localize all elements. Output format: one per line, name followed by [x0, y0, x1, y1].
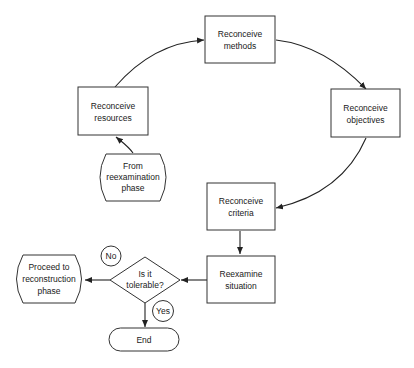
edge-from-reexam-to-resources [116, 137, 133, 153]
node-reconceive-objectives: Reconceive objectives [331, 89, 400, 137]
node-reconceive-resources: Reconceive resources [78, 87, 148, 135]
node-label-line: phase [37, 286, 60, 296]
node-label-line: Reconceive [91, 101, 136, 111]
edge-objectives-to-criteria [276, 138, 366, 208]
node-label-line: tolerable? [126, 280, 164, 290]
node-label-line: Reconceive [218, 29, 263, 39]
edge-label-text: Yes [156, 306, 170, 316]
node-label-line: Proceed to [28, 262, 69, 272]
node-label-line: End [136, 335, 151, 345]
edge-resources-to-methods [115, 40, 204, 87]
edge-label-yes: Yes [153, 301, 174, 322]
node-label-line: Reconceive [343, 103, 388, 113]
node-label-line: Is it [138, 269, 152, 279]
node-label-line: phase [121, 183, 144, 193]
node-label-line: From [123, 161, 143, 171]
node-label-line: objectives [347, 115, 385, 125]
node-label-line: methods [224, 41, 257, 51]
node-reconceive-criteria: Reconceive criteria [207, 183, 275, 230]
node-label-line: reconstruction [22, 274, 76, 284]
node-label-line: Reexamine [220, 269, 263, 279]
node-label-line: criteria [228, 208, 254, 218]
node-reconceive-methods: Reconceive methods [205, 16, 275, 63]
node-label-line: situation [225, 281, 257, 291]
edge-label-text: No [106, 251, 117, 261]
node-proceed-to-reconstruction-phase: Proceed to reconstruction phase [17, 255, 82, 303]
node-from-reexamination-phase: From reexamination phase [100, 154, 166, 201]
node-reexamine-situation: Reexamine situation [207, 256, 275, 303]
edge-methods-to-objectives [276, 40, 366, 89]
node-is-it-tolerable-decision: Is it tolerable? [110, 257, 180, 303]
node-end-terminator: End [109, 328, 179, 351]
node-label-line: reexamination [106, 172, 160, 182]
node-label-line: resources [94, 113, 131, 123]
edge-label-no: No [101, 246, 121, 266]
flowchart: Reconceive methods Reconceive objectives… [0, 0, 414, 368]
node-label-line: Reconceive [219, 196, 264, 206]
